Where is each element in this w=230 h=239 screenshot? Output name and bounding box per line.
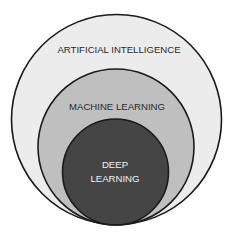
ai-label: ARTIFICIAL INTELLIGENCE: [57, 44, 180, 55]
dl-label-line2: LEARNING: [90, 173, 139, 184]
venn-nested-diagram: ARTIFICIAL INTELLIGENCE MACHINE LEARNING…: [0, 0, 230, 239]
ml-label: MACHINE LEARNING: [69, 101, 165, 112]
dl-label-line1: DEEP: [102, 159, 128, 170]
dl-circle: [63, 119, 169, 225]
